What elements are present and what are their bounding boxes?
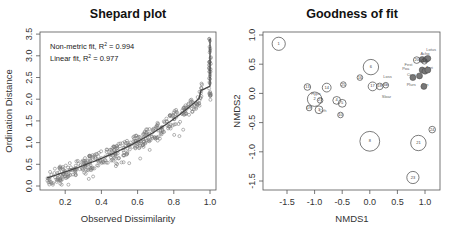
- site-bubble: 18: [376, 83, 383, 90]
- observation-point: [53, 167, 56, 170]
- goodness-of-fit-frame: [263, 32, 440, 190]
- observation-point: [182, 128, 185, 131]
- site-bubbles: 123456810131416171819202123242527286b: [272, 37, 435, 183]
- observation-point: [209, 98, 212, 101]
- site-bubble: 21: [411, 135, 426, 150]
- observation-point: [190, 107, 193, 110]
- site-bubble: 17: [368, 82, 377, 91]
- site-bubble: 1: [272, 37, 285, 50]
- site-label: 5: [341, 100, 344, 105]
- y-tick-label: 0.0: [24, 180, 34, 193]
- y-tick-label: 1.0: [24, 136, 34, 149]
- species-point: [417, 73, 423, 79]
- species-label: Loss: [383, 74, 391, 79]
- legend-nonmetric-fit: Non-metric fit, R2 = 0.994: [50, 41, 134, 51]
- species-point: [425, 67, 431, 73]
- site-bubble: 6: [363, 59, 378, 74]
- observation-point: [173, 133, 176, 136]
- y-tick-label: 0.5: [247, 58, 257, 71]
- x-tick-label: 1.0: [419, 197, 432, 207]
- site-label: 6b: [384, 82, 389, 87]
- y-tick-label: 1.0: [247, 29, 257, 42]
- shepard-plot-title: Shepard plot: [90, 7, 167, 21]
- shepard-plot-panel: Shepard plot 0.20.40.60.81.0 0.00.51.01.…: [3, 7, 216, 224]
- y-tick-label: 2.0: [24, 93, 34, 106]
- observation-point: [68, 162, 71, 165]
- site-bubble: 16: [357, 75, 363, 81]
- site-bubble: 28: [422, 58, 428, 64]
- x-tick-label: -1.0: [307, 197, 323, 207]
- site-bubble: 24: [429, 126, 436, 133]
- nmds1-axis-label: NMDS1: [335, 213, 368, 224]
- species-label: Poa: [402, 66, 410, 71]
- y-tick-label: 1.5: [24, 115, 34, 128]
- site-label: 16: [358, 75, 363, 80]
- nmds1-axis: -1.5-1.0-0.50.00.51.0: [279, 190, 431, 207]
- x-tick-label: 0.0: [364, 197, 377, 207]
- site-label: 28: [422, 58, 427, 63]
- x-tick-label: 0.8: [168, 197, 181, 207]
- site-label: 10: [338, 112, 343, 117]
- y-tick-label: 0.5: [24, 158, 34, 171]
- site-label: 23: [411, 175, 416, 180]
- site-label: 21: [416, 140, 421, 145]
- observation-point: [148, 148, 151, 151]
- x-tick-label: 0.2: [59, 197, 72, 207]
- observation-point: [128, 162, 131, 165]
- nmds2-axis: -1.5-1.0-0.50.00.51.0: [247, 29, 263, 189]
- shepard-y-axis-label: Ordination Distance: [3, 69, 14, 152]
- site-label: 25: [341, 82, 346, 87]
- goodness-of-fit-title: Goodness of fit: [306, 7, 399, 21]
- site-label: 17: [370, 83, 375, 88]
- x-tick-label: 0.5: [391, 197, 404, 207]
- site-label: 20: [414, 57, 419, 62]
- site-bubble: 6b: [383, 82, 389, 88]
- site-bubble: 27: [317, 97, 323, 103]
- site-bubble: 13: [304, 84, 311, 91]
- site-bubble: 19: [306, 105, 312, 111]
- y-tick-label: 3.5: [24, 28, 34, 41]
- x-tick-label: 1.0: [204, 197, 217, 207]
- observation-point: [165, 117, 168, 120]
- observation-point: [49, 170, 52, 173]
- species-point: [421, 83, 427, 89]
- observation-point: [122, 161, 125, 164]
- y-tick-label: 3.0: [24, 50, 34, 63]
- shepard-x-axis: 0.20.40.60.81.0: [59, 190, 216, 207]
- shepard-y-axis: 0.00.51.01.52.02.53.03.5: [24, 28, 40, 192]
- shepard-x-axis-label: Observed Dissimilarity: [81, 213, 176, 224]
- observation-point: [188, 113, 191, 116]
- observation-point: [92, 175, 95, 178]
- observation-point: [87, 177, 90, 180]
- nmds2-axis-label: NMDS2: [231, 94, 242, 127]
- site-bubble: 25: [341, 82, 347, 88]
- observation-point: [131, 145, 134, 148]
- site-label: 24: [430, 127, 435, 132]
- site-label: 2: [313, 96, 316, 101]
- y-tick-label: 0.0: [247, 87, 257, 100]
- site-label: 14: [324, 85, 329, 90]
- x-tick-label: -1.5: [279, 197, 295, 207]
- species-label: Sloar: [382, 94, 392, 99]
- site-label: 8: [369, 138, 372, 143]
- site-label: 6: [370, 64, 373, 69]
- x-tick-label: 0.6: [131, 197, 144, 207]
- site-label: 18: [377, 83, 382, 88]
- site-label: 1: [278, 41, 281, 46]
- figure: Shepard plot 0.20.40.60.81.0 0.00.51.01.…: [0, 0, 451, 236]
- site-label: 19: [307, 105, 312, 110]
- x-tick-label: -0.5: [334, 197, 350, 207]
- shepard-legend: Non-metric fit, R2 = 0.994 Linear fit, R…: [50, 41, 134, 63]
- x-tick-label: 0.4: [95, 197, 108, 207]
- y-tick-label: -1.5: [247, 173, 257, 189]
- species-label: Plurs: [407, 82, 416, 87]
- legend-linear-fit: Linear fit, R2 = 0.977: [50, 53, 118, 63]
- site-bubble: 23: [407, 171, 419, 183]
- observation-point: [53, 172, 56, 175]
- y-tick-label: 2.5: [24, 71, 34, 84]
- site-bubble: 8: [360, 131, 380, 151]
- observation-point: [179, 120, 182, 123]
- site-bubble: 14: [322, 83, 331, 92]
- site-bubble: 10: [338, 112, 344, 118]
- site-label: 4: [336, 97, 339, 102]
